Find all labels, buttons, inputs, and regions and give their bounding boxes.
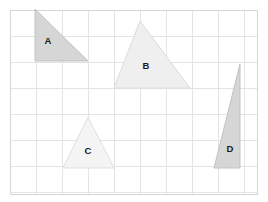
triangle-b-label: B xyxy=(143,60,150,71)
triangle-c-label: C xyxy=(85,145,92,156)
triangle-a-label: A xyxy=(45,35,52,46)
triangle-d-label: D xyxy=(227,143,234,154)
figure-canvas: ABCD xyxy=(0,0,268,202)
geometry-figure: ABCD xyxy=(0,0,268,202)
